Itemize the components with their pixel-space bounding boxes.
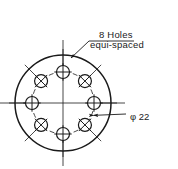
technical-drawing-canvas: 8 Holes equi-spaced φ 22 (0, 0, 178, 169)
drawing-svg: 8 Holes equi-spaced φ 22 (0, 0, 178, 169)
hole (35, 118, 48, 131)
hole (78, 75, 91, 88)
holes-spacing-label: equi-spaced (90, 39, 144, 50)
hole (78, 118, 91, 131)
hole (35, 75, 48, 88)
diameter-dimension-label: φ 22 (130, 111, 149, 122)
